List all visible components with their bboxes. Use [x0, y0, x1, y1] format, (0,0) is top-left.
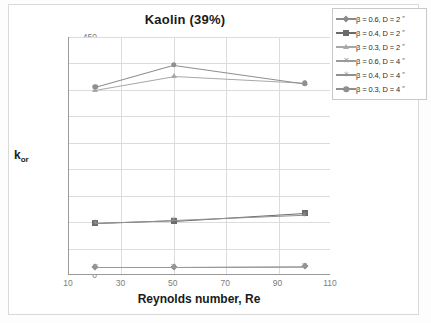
data-point-circle: [92, 84, 98, 90]
legend-marker-x-icon: ✕: [336, 55, 356, 67]
legend-item-2[interactable]: β = 0.3, D = 2 ˮ: [336, 40, 424, 54]
series-5: [69, 37, 330, 274]
legend-marker-circle-icon: [336, 83, 356, 95]
legend-item-1[interactable]: β = 0.4, D = 2 ˮ: [336, 26, 424, 40]
chart-title: Kaolin (39%): [60, 12, 310, 27]
x-tick-label: 90: [264, 278, 292, 288]
x-tick-label: 70: [211, 278, 239, 288]
legend-marker-diamond-icon: [336, 13, 356, 25]
y-axis-title-sub: or: [21, 155, 29, 164]
legend-item-0[interactable]: β = 0.6, D = 2 ˮ: [336, 12, 424, 26]
plot-area: ✕✕✕✳✳✳: [68, 37, 330, 275]
data-point-diamond: [342, 15, 349, 22]
legend-label: β = 0.6, D = 2 ˮ: [356, 15, 405, 24]
legend-label: β = 0.3, D = 2 ˮ: [356, 43, 405, 52]
x-tick-label: 110: [316, 278, 344, 288]
x-tick-label: 10: [54, 278, 82, 288]
series-line-segment: [95, 65, 174, 89]
data-point-x: ✕: [343, 57, 350, 65]
series-line-segment: [174, 65, 305, 85]
legend-marker-square-icon: [336, 27, 356, 39]
legend-item-5[interactable]: β = 0.3, D = 4 ˮ: [336, 82, 424, 96]
x-axis-title: Reynolds number, Re: [68, 292, 330, 306]
data-point-triangle: [343, 44, 349, 49]
legend-marker-star-icon: ✳: [336, 69, 356, 81]
legend-item-4[interactable]: ✳β = 0.4, D = 4 ˮ: [336, 68, 424, 82]
legend-marker-triangle-icon: [336, 41, 356, 53]
y-axis-title: kor: [14, 148, 29, 164]
data-point-circle: [343, 86, 349, 92]
data-point-circle: [171, 62, 177, 68]
data-point-circle: [302, 80, 308, 86]
legend-label: β = 0.4, D = 2 ˮ: [356, 29, 405, 38]
legend-label: β = 0.3, D = 4 ˮ: [356, 85, 405, 94]
chart-legend: β = 0.6, D = 2 ˮβ = 0.4, D = 2 ˮβ = 0.3,…: [332, 8, 427, 100]
x-tick-label: 50: [159, 278, 187, 288]
y-axis-title-main: k: [14, 148, 21, 162]
data-series-layer: ✕✕✕✳✳✳: [69, 37, 330, 274]
chart-figure: Kaolin (39%) kor Reynolds number, Re 050…: [0, 0, 431, 323]
x-tick-label: 30: [106, 278, 134, 288]
legend-item-3[interactable]: ✕β = 0.6, D = 4 ˮ: [336, 54, 424, 68]
data-point-square: [343, 30, 349, 36]
data-point-star: ✳: [343, 71, 350, 79]
legend-label: β = 0.4, D = 4 ˮ: [356, 71, 405, 80]
legend-label: β = 0.6, D = 4 ˮ: [356, 57, 405, 66]
